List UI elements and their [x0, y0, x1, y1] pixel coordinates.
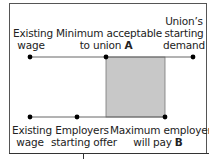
- point-b-marker: B: [175, 136, 183, 148]
- point-a-marker: A: [124, 39, 132, 51]
- label-line: Minimum acceptable: [56, 27, 156, 39]
- label-line: wage: [12, 136, 48, 148]
- label-union-starting-demand: Union’s starting demand: [163, 15, 205, 51]
- label-line: Employers: [51, 124, 113, 136]
- union-minimum-dot: [104, 55, 109, 60]
- label-text: to union: [80, 39, 125, 51]
- label-line: demand: [163, 39, 205, 51]
- label-line: Maximum employer: [110, 124, 206, 136]
- label-employer-existing-wage: Existing wage: [12, 124, 48, 148]
- label-text: will pay: [133, 136, 175, 148]
- label-line: Existing: [12, 124, 48, 136]
- label-line: starting: [163, 27, 205, 39]
- label-union-existing-wage: Existing wage: [13, 27, 49, 51]
- label-line: Existing: [13, 27, 49, 39]
- label-employer-starting-offer: Employers starting offer: [51, 124, 113, 148]
- employer-starting-offer-dot: [75, 115, 80, 120]
- label-line: starting offer: [51, 136, 113, 148]
- label-employer-maximum: Maximum employer will pay B: [110, 124, 206, 148]
- union-starting-demand-dot: [191, 55, 196, 60]
- employer-existing-wage-dot: [28, 115, 33, 120]
- label-line: wage: [13, 39, 49, 51]
- label-union-minimum: Minimum acceptable to union A: [56, 27, 156, 51]
- label-line: to union A: [56, 39, 156, 51]
- employer-maximum-dot: [163, 115, 168, 120]
- label-line: will pay B: [110, 136, 206, 148]
- label-line: Union’s: [163, 15, 205, 27]
- union-existing-wage-dot: [28, 55, 33, 60]
- bargaining-zone: [106, 57, 165, 117]
